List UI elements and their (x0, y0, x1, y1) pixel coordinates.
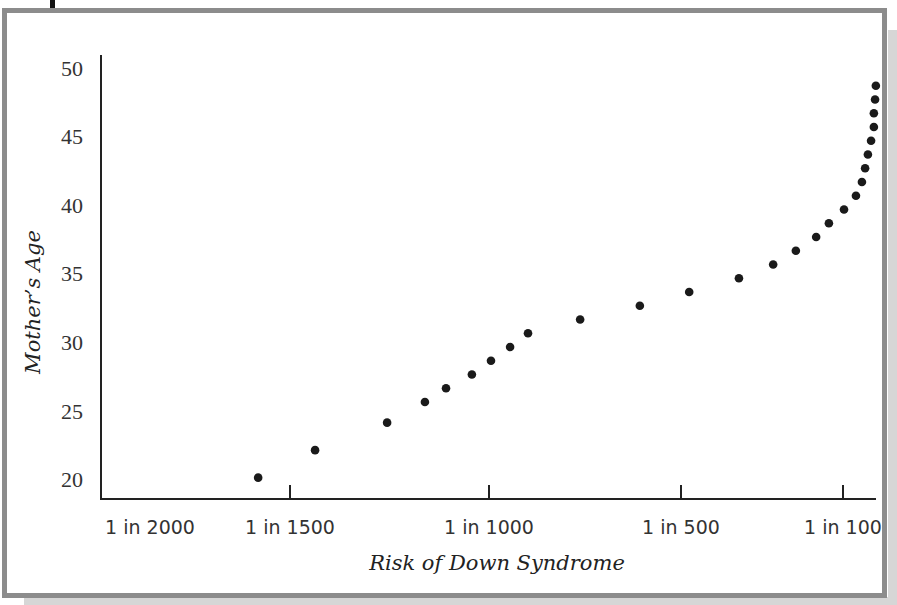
data-point (858, 178, 867, 187)
data-point (825, 219, 834, 228)
data-point (861, 164, 870, 173)
y-tick-labels: 50454035302520 (61, 56, 83, 493)
data-point (636, 301, 645, 310)
x-tick-label: 1 in 2000 (105, 516, 195, 538)
data-point (870, 109, 879, 118)
data-point (487, 356, 496, 365)
x-tick-label: 1 in 100 (804, 516, 882, 538)
y-axis-title: Mother’s Age (21, 230, 45, 375)
data-points (254, 81, 880, 481)
data-point (840, 205, 849, 214)
data-point (421, 398, 430, 407)
data-point (870, 123, 879, 132)
data-point (383, 418, 392, 427)
y-tick-label: 20 (61, 467, 83, 492)
x-tick-label: 1 in 1000 (444, 516, 534, 538)
x-tick-label: 1 in 500 (642, 516, 720, 538)
data-point (254, 473, 263, 482)
data-point (872, 81, 881, 90)
axes (100, 55, 876, 500)
y-tick-label: 25 (61, 399, 83, 424)
y-tick-label: 40 (61, 193, 83, 218)
x-tick-label: 1 in 1500 (245, 516, 335, 538)
y-tick-label: 50 (61, 56, 83, 81)
data-point (468, 370, 477, 379)
data-point (311, 446, 320, 455)
data-point (867, 136, 876, 145)
data-point (506, 343, 515, 352)
x-ticks: 1 in 20001 in 15001 in 10001 in 5001 in … (105, 485, 882, 538)
data-point (735, 274, 744, 283)
y-tick-label: 35 (61, 261, 83, 286)
data-point (685, 288, 694, 297)
scatter-chart: 50454035302520 1 in 20001 in 15001 in 10… (0, 0, 897, 605)
data-point (852, 191, 861, 200)
y-tick-label: 30 (61, 330, 83, 355)
data-point (812, 233, 821, 242)
data-point (871, 95, 880, 104)
x-axis-title: Risk of Down Syndrome (368, 551, 625, 575)
data-point (769, 260, 778, 269)
data-point (524, 329, 533, 338)
data-point (576, 315, 585, 324)
y-tick-label: 45 (61, 124, 83, 149)
data-point (792, 246, 801, 255)
data-point (864, 150, 873, 159)
data-point (442, 384, 451, 393)
